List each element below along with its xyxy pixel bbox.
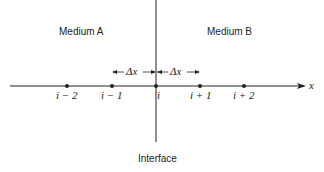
- node-label-i: i: [157, 89, 160, 101]
- node-label-i-plus-1: i + 1: [190, 89, 211, 101]
- x-axis-label: x: [309, 79, 314, 91]
- medium-b-label: Medium B: [207, 26, 252, 37]
- dx-left-label: Δx: [126, 65, 137, 77]
- medium-a-label: Medium A: [59, 26, 103, 37]
- node-label-i-minus-2: i − 2: [56, 89, 77, 101]
- dx-right-label: Δx: [170, 65, 181, 77]
- node-label-i-minus-1: i − 1: [101, 89, 122, 101]
- diagram-canvas: [0, 0, 324, 172]
- node-label-i-plus-2: i + 2: [233, 89, 254, 101]
- interface-label: Interface: [138, 153, 177, 164]
